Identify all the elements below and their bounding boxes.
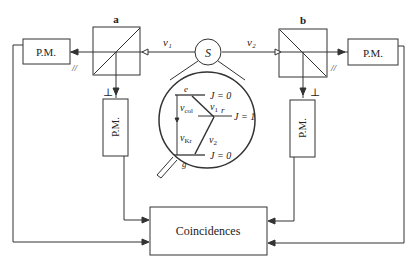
level-g-label: g [182,159,187,169]
a-perp-label: ⊥ [103,86,113,98]
j-top-label: J = 0 [210,90,231,101]
wire-right-perp [272,157,294,221]
level-e-label: e [184,84,188,94]
arrow-beam-into-b [275,49,281,55]
wire-right-parallel [272,46,404,243]
arrow-beam-into-a [142,49,148,55]
polarizer-b-label: b [300,14,306,26]
magnifier-handle [157,157,177,178]
level-r-label: r [221,105,225,115]
beam-right-label: ν₂ [247,36,256,48]
coincidence-experiment-diagram: a b ν₁ ν₂ S // // ⊥ ⊥ P.M. P.M. P.M. P.M… [0,0,418,264]
arrow-a-perp [113,88,119,95]
a-parallel-label: // [71,63,79,73]
b-parallel-label: // [330,63,338,73]
detector-left-perp-label: P.M. [109,117,121,137]
polarizer-a-label: a [113,13,119,25]
detector-right-perp-label: P.M. [296,118,308,138]
arrow-b-perp [300,88,306,95]
nu2-label: ν2 [209,134,217,147]
nu1-label: ν1 [210,101,218,114]
j-bot-label: J = 0 [210,150,231,161]
beam-left-label: ν₁ [163,36,172,48]
coincidence-label: Coincidences [176,224,241,238]
source-label: S [205,46,211,60]
arrow-left-parallel [71,49,78,55]
nu-kr-label: νKr [180,132,193,145]
wire-left-perp [124,156,145,220]
detector-left-parallel-label: P.M. [36,46,56,58]
detector-right-parallel-label: P.M. [363,47,383,59]
b-perp-label: ⊥ [310,86,320,98]
nu-col-label: νcol [180,102,193,115]
arrow-right-parallel [338,49,345,55]
j-mid-label: J = 1 [234,111,255,122]
